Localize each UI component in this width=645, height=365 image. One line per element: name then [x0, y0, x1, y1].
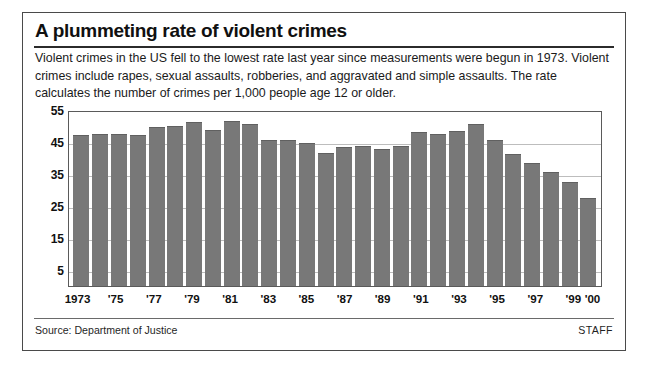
bar: [562, 182, 578, 286]
bar: [242, 124, 258, 286]
y-axis-labels: 51525354555: [34, 107, 64, 291]
x-axis-tick-label: '87: [337, 292, 353, 305]
y-axis-tick-label: 35: [51, 168, 64, 182]
x-axis-tick-label: '95: [489, 292, 505, 305]
x-axis-tick-label: '99: [566, 292, 582, 305]
x-axis-tick-label: '00: [585, 292, 601, 305]
bar: [149, 127, 165, 286]
bar: [430, 134, 446, 286]
title-divider: [34, 46, 614, 48]
bar: [167, 126, 183, 286]
bar: [130, 135, 146, 286]
y-axis-tick-label: 45: [51, 136, 64, 150]
bar: [487, 140, 503, 286]
x-axis-tick-label: '75: [108, 292, 124, 305]
bar-series: [69, 112, 601, 286]
x-axis-tick-label: '93: [451, 292, 467, 305]
x-axis-tick-label: '83: [260, 292, 276, 305]
bar: [318, 153, 334, 286]
x-axis-tick-label: '89: [375, 292, 391, 305]
bar: [336, 147, 352, 286]
y-axis-tick-label: 25: [51, 200, 64, 214]
chart-card: A plummeting rate of violent crimes Viol…: [22, 12, 626, 351]
bar: [449, 131, 465, 286]
staff-credit: STAFF: [578, 324, 613, 336]
x-axis-tick-label: '81: [222, 292, 238, 305]
bar: [186, 122, 202, 286]
bar: [393, 146, 409, 286]
bar: [261, 140, 277, 286]
x-axis-tick-label: '97: [527, 292, 543, 305]
x-axis-tick-label: '77: [146, 292, 162, 305]
bar-chart: 51525354555 1973'75'77'79'81'83'85'87'89…: [34, 107, 614, 317]
infographic-root: A plummeting rate of violent crimes Viol…: [0, 0, 645, 365]
x-axis-tick-label: '79: [184, 292, 200, 305]
bar: [543, 172, 559, 286]
y-axis-tick-label: 15: [51, 232, 64, 246]
x-axis-tick-label: '91: [413, 292, 429, 305]
bar: [224, 121, 240, 286]
y-axis-tick-label: 5: [57, 264, 64, 278]
bar: [374, 149, 390, 286]
bar: [73, 135, 89, 286]
x-axis-labels: 1973'75'77'79'81'83'85'87'89'91'93'95'97…: [68, 290, 602, 310]
bar: [280, 140, 296, 286]
bar: [92, 134, 108, 286]
x-axis-tick-label: '85: [299, 292, 315, 305]
page-title: A plummeting rate of violent crimes: [35, 20, 347, 42]
bar: [355, 146, 371, 286]
bar: [524, 163, 540, 286]
subtitle-text: Violent crimes in the US fell to the low…: [35, 50, 613, 103]
bar: [411, 132, 427, 286]
bar: [111, 134, 127, 286]
footer-divider: [34, 318, 614, 319]
x-axis-tick-label: 1973: [65, 292, 91, 305]
y-axis-tick-label: 55: [51, 104, 64, 118]
bar: [299, 143, 315, 286]
bar: [505, 154, 521, 286]
plot-area: [68, 111, 602, 287]
bar: [205, 130, 221, 286]
source-note: Source: Department of Justice: [35, 324, 178, 336]
bar: [580, 198, 596, 286]
bar: [468, 124, 484, 286]
